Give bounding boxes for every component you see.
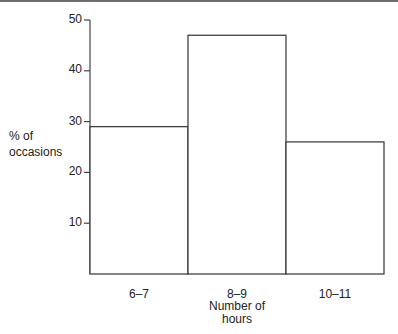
bar-8–9 [188, 35, 286, 274]
y-tick-label-10: 10 [52, 215, 82, 229]
y-tick-label-30: 30 [52, 114, 82, 128]
y-axis-ticks [84, 20, 90, 223]
x-axis-title: Number of hours [188, 300, 286, 326]
bar-10–11 [286, 142, 384, 274]
y-tick-label-50: 50 [52, 12, 82, 26]
y-axis-title: % of occasions [9, 128, 62, 160]
bars [90, 35, 384, 274]
y-axis-title-line1: % of [9, 128, 62, 144]
x-category-label-10-11: 10–11 [286, 287, 384, 301]
x-category-label-6-7: 6–7 [90, 287, 188, 301]
bar-6–7 [90, 127, 188, 274]
y-tick-label-40: 40 [52, 62, 82, 76]
y-axis-title-line2: occasions [9, 144, 62, 160]
y-tick-label-20: 20 [52, 164, 82, 178]
x-axis-title-line2: hours [188, 313, 286, 326]
